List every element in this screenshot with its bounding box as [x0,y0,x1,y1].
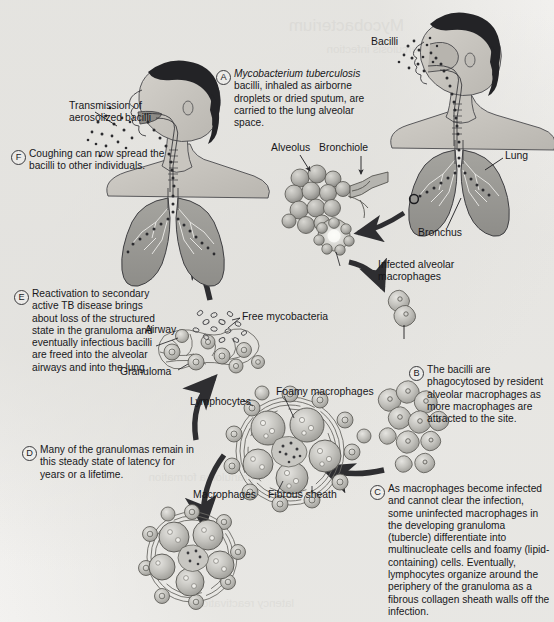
step-marker-e: E [14,290,29,305]
label-granuloma: Granuloma [120,366,171,378]
label-bronchiole: Bronchiole [319,142,368,154]
arrow-d-to-e [195,378,214,440]
left-lungs [122,188,225,286]
label-alveolus: Alveolus [271,142,310,154]
step-text-f: Coughing can now spread the bacilli to o… [29,148,189,173]
label-lung: Lung [505,150,528,162]
right-head-figure [391,12,554,150]
label-bacilli: Bacilli [371,36,398,48]
step-text-b: The bacilli are phagocytosed by resident… [427,364,549,425]
label-bronchus: Bronchus [418,227,462,239]
label-airway: Airway [145,324,176,336]
label-infected-alveolar-macrophages: Infected alveolar macrophages [378,259,454,283]
step-a-rest: bacilli, inhaled as airborne droplets or… [234,80,364,128]
alveolus-cluster [282,155,404,266]
label-foamy-macrophages: Foamy macrophages [276,386,374,398]
step-text-c: As macrophages become infected and canno… [388,483,550,618]
step-text-a: Mycobacterium tuberculosis bacilli, inha… [234,68,376,129]
arrow-lung-to-alveolus [358,213,404,233]
label-fibrous-sheath: Fibrous sheath [268,489,337,501]
step-marker-c: C [370,485,385,500]
step-text-d: Many of the granulomas remain in this st… [40,444,200,481]
label-macrophages: Macrophages [193,489,256,501]
step-marker-d: D [22,446,37,461]
granuloma-latent [139,505,246,610]
figure-canvas: Mycobacterium tuberculosis infection gra… [0,0,554,622]
label-transmission-of-aerosolized-bacilli: Transmission of aerosolized bacilli [69,100,151,124]
step-marker-f: F [11,150,26,165]
step-marker-b: B [409,366,424,381]
infected-macrophage-pair [388,290,415,326]
infected-alveolus [314,218,354,256]
label-free-mycobacteria: Free mycobacteria [242,311,328,323]
step-marker-a: A [216,70,231,85]
free-mycobacteria [193,309,248,343]
step-text-e: Reactivation to secondary active TB dise… [32,288,158,374]
right-lungs [409,140,510,236]
label-lymphocytes: Lymphocytes [190,396,251,408]
step-a-species: Mycobacterium tuberculosis [234,68,360,79]
